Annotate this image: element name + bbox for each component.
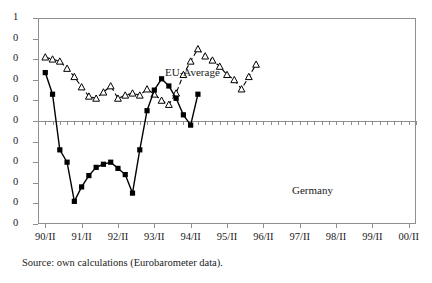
y-tick-label: 1 [0,12,18,22]
y-tick-label: 0 [0,94,18,104]
x-tick-mark-major [409,224,410,228]
x-tick-mark-major [118,224,119,228]
x-tick-mark-major [154,224,155,228]
source-caption: Source: own calculations (Eurobarometer … [22,256,223,269]
marker-triangle [42,54,49,60]
marker-square [43,70,48,75]
marker-square [64,160,69,165]
series-label-germany: Germany [292,184,333,196]
plot-area [38,18,416,224]
marker-triangle [209,57,216,63]
marker-square [166,83,171,88]
marker-triangle [158,97,165,103]
marker-square [123,172,128,177]
marker-square [152,88,157,93]
y-tick-mark [33,224,38,225]
y-tick-label: 0 [0,53,18,63]
y-tick-label: 0 [0,177,18,187]
marker-square [137,147,142,152]
marker-triangle [78,84,85,90]
marker-square [174,96,179,101]
y-tick-label: 0 [0,218,18,228]
y-tick-label: 0 [0,115,18,125]
y-tick-label: 0 [0,33,18,43]
x-tick-label: 00/II [387,231,431,242]
marker-square [94,165,99,170]
marker-triangle [122,92,129,98]
y-tick-label: 0 [0,197,18,207]
marker-triangle [165,101,172,107]
series-eu-average [42,46,260,108]
marker-triangle [107,83,114,89]
x-tick-mark-major [82,224,83,228]
x-tick-mark-major [191,224,192,228]
marker-square [86,173,91,178]
x-tick-mark-major [336,224,337,228]
marker-triangle [195,46,202,52]
marker-square [159,76,164,81]
marker-triangle [115,95,122,101]
y-tick-label: 0 [0,156,18,166]
marker-square [115,166,120,171]
marker-triangle [253,61,260,67]
x-tick-mark-major [372,224,373,228]
marker-triangle [129,90,136,96]
marker-triangle [144,86,151,92]
marker-square [108,160,113,165]
marker-square [72,199,77,204]
marker-square [50,92,55,97]
y-tick-label: 0 [0,136,18,146]
marker-square [181,112,186,117]
x-tick-mark-major [227,224,228,228]
y-tick-label: 0 [0,74,18,84]
marker-square [57,147,62,152]
marker-square [195,92,200,97]
x-tick-mark-major [263,224,264,228]
marker-square [188,123,193,128]
marker-triangle [64,65,71,71]
x-tick-mark-major [45,224,46,228]
marker-triangle [245,73,252,79]
x-tick-mark-major [300,224,301,228]
marker-triangle [49,56,56,62]
marker-triangle [231,76,238,82]
marker-triangle [187,58,194,64]
marker-square [79,184,84,189]
series-label-eu-average: EU-Average [165,66,220,78]
figure-root: 10000000000 90/II91/II92/II93/II94/II95/… [0,0,432,283]
marker-square [130,191,135,196]
marker-square [144,108,149,113]
marker-square [101,162,106,167]
x-tick-mark [416,121,417,125]
marker-triangle [202,53,209,59]
